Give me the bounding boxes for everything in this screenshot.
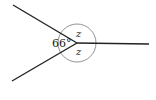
angle-label-66: 66° bbox=[52, 37, 72, 50]
angle-diagram: 66° z z bbox=[0, 0, 156, 100]
ray-right bbox=[77, 43, 149, 44]
angle-label-z-lower: z bbox=[75, 46, 82, 57]
angle-label-z-upper: z bbox=[75, 28, 82, 39]
